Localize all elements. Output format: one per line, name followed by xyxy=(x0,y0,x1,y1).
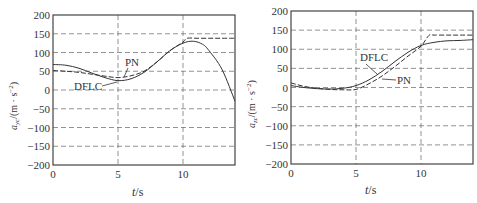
chart-azc-svg: 200 150 100 50 0 −50 −100 −150 −200 0 5 … xyxy=(240,0,477,203)
y-tick-label: 200 xyxy=(272,5,289,17)
x-tick-label: 0 xyxy=(288,167,294,179)
y-tick-labels: 200 150 100 50 0 −50 −100 −150 −200 xyxy=(265,5,288,170)
x-axis-label: t/s xyxy=(365,183,377,197)
x-tick-label: 10 xyxy=(178,168,190,180)
x-tick-labels: 0 5 10 xyxy=(288,167,427,179)
chart-azc: 200 150 100 50 0 −50 −100 −150 −200 0 5 … xyxy=(240,0,477,203)
y-tick-label: 0 xyxy=(45,84,51,96)
y-tick-label: 100 xyxy=(272,43,289,55)
annotation-dflc: DFLC xyxy=(360,51,388,63)
annotation-dflc-arrow xyxy=(102,82,117,86)
y-tick-label: 150 xyxy=(34,28,51,40)
y-tick-label: −200 xyxy=(265,158,288,170)
y-axis-label: ayc/(m · s−2) xyxy=(7,82,21,130)
x-tick-label: 10 xyxy=(416,167,428,179)
y-tick-label: −100 xyxy=(265,120,288,132)
x-tick-labels: 0 5 10 xyxy=(50,168,189,180)
y-tick-label: 50 xyxy=(39,65,51,77)
y-tick-label: 200 xyxy=(34,9,51,21)
annotation-pn-arrow xyxy=(382,79,396,80)
x-tick-label: 5 xyxy=(115,168,121,180)
series-pn xyxy=(53,38,235,78)
y-tick-label: −200 xyxy=(27,159,50,171)
annotation-pn-arrow xyxy=(124,68,128,77)
y-tick-label: −50 xyxy=(271,101,289,113)
y-tick-label: −150 xyxy=(265,139,288,151)
x-tick-label: 5 xyxy=(353,167,359,179)
y-tick-label: −50 xyxy=(33,103,51,115)
x-axis-label: t/s xyxy=(132,185,144,199)
y-tick-label: 0 xyxy=(283,82,289,94)
chart-ayc-svg: 200 150 100 50 0 −50 −100 −150 −200 0 5 … xyxy=(0,0,240,203)
annotation-pn: PN xyxy=(125,56,139,68)
y-axis-label: azc/(m · s−2) xyxy=(245,80,259,128)
x-tick-label: 0 xyxy=(50,168,56,180)
annotation-dflc: DFLC xyxy=(74,80,102,92)
annotation-dflc-arrow xyxy=(366,64,377,74)
y-tick-label: 150 xyxy=(272,24,289,36)
grid xyxy=(291,11,473,164)
y-tick-label: −100 xyxy=(27,122,50,134)
series-dflc xyxy=(291,40,473,89)
chart-ayc: 200 150 100 50 0 −50 −100 −150 −200 0 5 … xyxy=(0,0,240,203)
y-tick-label: 100 xyxy=(34,47,51,59)
y-tick-label: −150 xyxy=(27,140,50,152)
annotation-pn: PN xyxy=(397,74,411,86)
y-tick-labels: 200 150 100 50 0 −50 −100 −150 −200 xyxy=(27,9,50,171)
y-tick-label: 50 xyxy=(277,62,289,74)
